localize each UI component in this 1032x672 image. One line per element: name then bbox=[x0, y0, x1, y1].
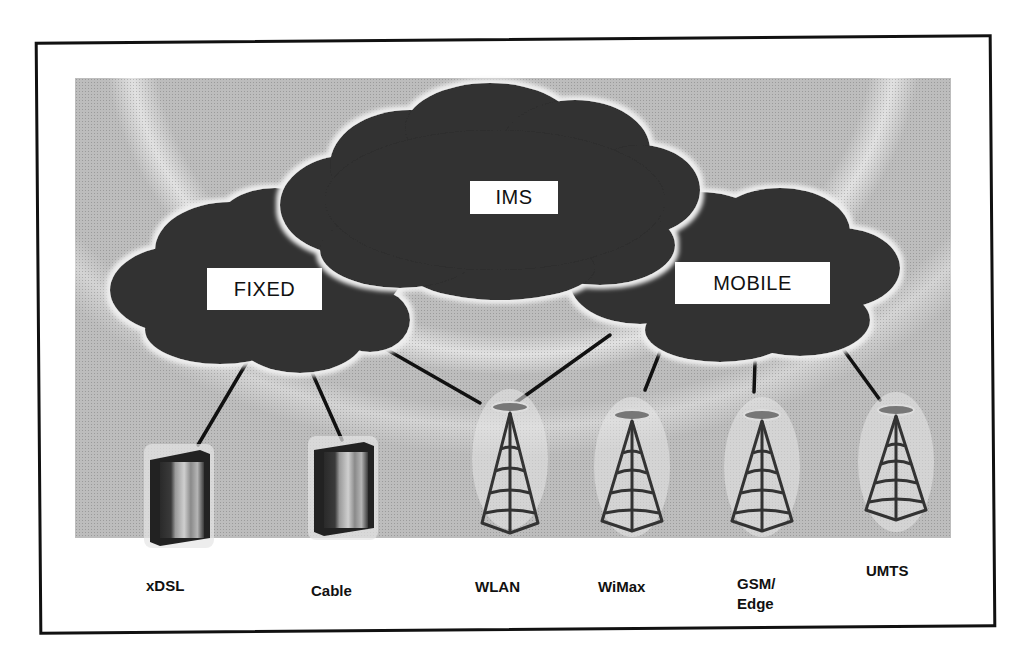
node-label-wimax: WiMax bbox=[598, 577, 645, 597]
link-mobile-wlan bbox=[515, 335, 610, 403]
cloud-label-mobile: MOBILE bbox=[675, 262, 830, 304]
node-label-xdsl: xDSL bbox=[146, 576, 184, 596]
node-label-gsm-edge: GSM/ Edge bbox=[737, 574, 775, 614]
antenna-tower-icon bbox=[594, 397, 670, 537]
node-label-cable: Cable bbox=[311, 581, 352, 601]
antenna-tower-icon bbox=[724, 397, 800, 537]
cloud-label-ims: IMS bbox=[470, 181, 558, 214]
link-fixed-xdsl bbox=[198, 362, 247, 445]
link-fixed-wlan bbox=[370, 340, 480, 403]
node-label-wlan: WLAN bbox=[475, 577, 520, 597]
server-box-icon bbox=[144, 444, 214, 548]
node-label-edge: Edge bbox=[737, 594, 775, 614]
node-label-umts: UMTS bbox=[866, 561, 909, 581]
node-label-gsm: GSM/ bbox=[737, 574, 775, 594]
server-box-icon bbox=[308, 436, 378, 540]
antenna-tower-icon bbox=[472, 389, 548, 533]
antenna-tower-icon bbox=[858, 392, 934, 532]
link-mobile-wimax bbox=[645, 352, 660, 390]
link-mobile-gsm bbox=[754, 362, 755, 392]
link-fixed-cable bbox=[310, 368, 342, 440]
cloud-label-fixed: FIXED bbox=[207, 268, 322, 310]
